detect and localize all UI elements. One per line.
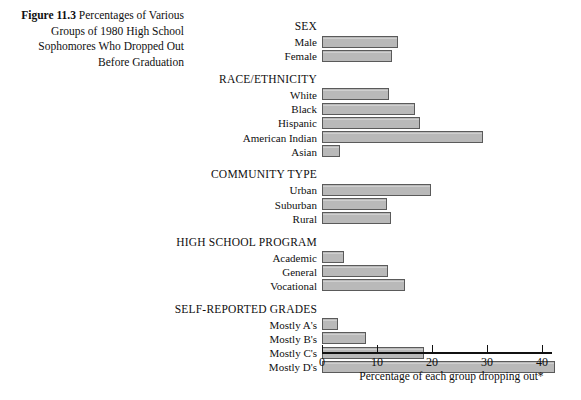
bar — [322, 50, 392, 62]
group-title: RACE/ETHNICITY — [219, 73, 317, 86]
bar — [322, 279, 405, 291]
x-axis-tick-label: 10 — [362, 355, 392, 370]
bar — [322, 88, 389, 100]
x-axis-tick-label: 30 — [472, 355, 502, 370]
bar — [322, 318, 338, 330]
bar — [322, 332, 366, 344]
horizontal-bar-chart: SEXMaleFemaleRACE/ETHNICITYWhiteBlackHis… — [0, 0, 581, 400]
group-title: SEX — [295, 20, 317, 33]
x-axis-tick-label: 40 — [527, 355, 557, 370]
category-label: Asian — [291, 146, 317, 158]
x-axis-tick — [377, 345, 378, 353]
x-axis-tick — [542, 345, 543, 353]
category-label: Academic — [272, 252, 317, 264]
x-axis-tick — [322, 345, 323, 353]
category-label: General — [282, 266, 317, 278]
category-label: White — [290, 89, 317, 101]
bar — [322, 145, 340, 157]
bar — [322, 131, 483, 143]
category-label: Vocational — [270, 280, 317, 292]
bar — [322, 251, 344, 263]
group-title: HIGH SCHOOL PROGRAM — [176, 236, 317, 249]
x-axis-tick — [432, 345, 433, 353]
category-label: Black — [291, 103, 317, 115]
x-axis-tick-label: 0 — [307, 355, 337, 370]
bar — [322, 117, 420, 129]
bar — [322, 265, 388, 277]
x-axis-tick-label: 20 — [417, 355, 447, 370]
category-label: Mostly A's — [269, 319, 317, 331]
category-label: American Indian — [243, 132, 317, 144]
category-label: Mostly B's — [269, 333, 317, 345]
bar — [322, 103, 415, 115]
x-axis-tick — [487, 345, 488, 353]
bar — [322, 212, 391, 224]
bar — [322, 36, 398, 48]
category-label: Urban — [290, 184, 318, 196]
category-label: Suburban — [275, 199, 317, 211]
x-axis-line — [322, 352, 552, 354]
group-title: COMMUNITY TYPE — [211, 168, 317, 181]
x-axis-title: Percentage of each group dropping out* — [322, 370, 581, 382]
category-label: Male — [294, 36, 317, 48]
figure-page: Figure 11.3 Percentages of Various Group… — [0, 0, 581, 400]
category-label: Rural — [293, 213, 317, 225]
category-label: Female — [285, 50, 317, 62]
category-label: Hispanic — [278, 117, 317, 129]
bar — [322, 184, 431, 196]
bar — [322, 198, 387, 210]
group-title: SELF-REPORTED GRADES — [175, 303, 317, 316]
